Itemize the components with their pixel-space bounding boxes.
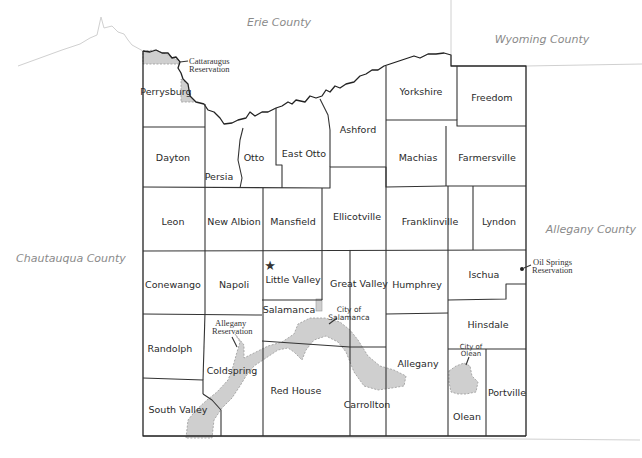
city-of-olean: [449, 363, 478, 394]
town-farmersville: Farmersville: [458, 152, 516, 163]
town-olean: Olean: [453, 411, 481, 422]
town-ischua: Ischua: [469, 269, 500, 280]
town-lyndon: Lyndon: [482, 216, 516, 227]
town-otto: Otto: [244, 152, 265, 163]
erie-county-label: Erie County: [247, 16, 311, 29]
town-great-valley: Great Valley: [330, 278, 388, 289]
town-leon: Leon: [162, 216, 185, 227]
town-franklinville: Franklinville: [402, 216, 459, 227]
town-machias: Machias: [399, 152, 438, 163]
svg-text:Reservation: Reservation: [532, 265, 573, 275]
town-conewango: Conewango: [145, 279, 201, 290]
allegany-county-label: Allegany County: [545, 223, 637, 236]
town-ellicottville: Ellicotville: [333, 211, 381, 222]
town-coldspring: Coldspring: [207, 365, 258, 376]
town-carrollton: Carrollton: [344, 399, 391, 410]
cattaraugus-county-map: Erie County Wyoming County Allegany Coun…: [0, 0, 642, 458]
town-dayton: Dayton: [156, 152, 190, 163]
town-ashford: Ashford: [340, 124, 376, 135]
town-randolph: Randolph: [148, 343, 193, 354]
svg-text:Olean: Olean: [461, 350, 482, 358]
external-boundaries: [18, 0, 642, 440]
chautauqua-county-label: Chautauqua County: [16, 252, 126, 265]
town-little-valley: Little Valley: [265, 274, 321, 285]
town-hinsdale: Hinsdale: [467, 319, 508, 330]
wyoming-county-label: Wyoming County: [495, 33, 590, 46]
town-napoli: Napoli: [219, 279, 249, 290]
town-south-valley: South Valley: [149, 404, 208, 415]
salamanca-strip: [316, 299, 322, 311]
svg-text:Reservation: Reservation: [212, 326, 253, 336]
town-red-house: Red House: [271, 385, 322, 396]
neighbor-county-labels: Erie County Wyoming County Allegany Coun…: [16, 16, 637, 265]
oil-springs-dot: [520, 267, 524, 271]
town-yorkshire: Yorkshire: [399, 86, 443, 97]
county-seat-star-icon: ★: [264, 258, 276, 273]
town-perrysburg: Perrysburg: [140, 86, 191, 97]
town-new-albion: New Albion: [207, 216, 260, 227]
town-east-otto: East Otto: [282, 148, 326, 159]
town-humphrey: Humphrey: [392, 279, 442, 290]
town-persia: Persia: [205, 171, 234, 182]
town-freedom: Freedom: [471, 92, 512, 103]
town-salamanca: Salamanca: [263, 304, 315, 315]
svg-text:Reservation: Reservation: [189, 64, 230, 74]
town-mansfield: Mansfield: [270, 216, 316, 227]
svg-text:Salamanca: Salamanca: [328, 313, 369, 322]
allegany-reservation: [186, 318, 406, 438]
town-portville: Portville: [488, 387, 526, 398]
town-allegany: Allegany: [397, 358, 438, 369]
